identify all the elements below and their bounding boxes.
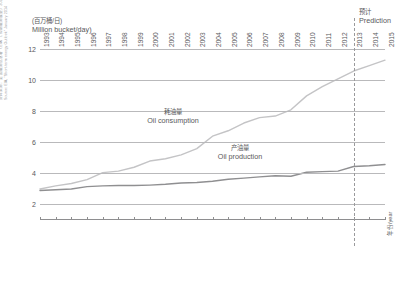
x-axis-tick-label: 1993 bbox=[43, 32, 50, 47]
x-axis-tick bbox=[338, 217, 339, 220]
x-axis-tick bbox=[118, 217, 119, 220]
x-axis-tick-label: 1994 bbox=[58, 32, 65, 47]
series-lines bbox=[40, 40, 385, 220]
x-axis-tick bbox=[213, 217, 214, 220]
x-axis-tick-label: 2000 bbox=[152, 32, 159, 47]
source-note: 资料来源：美国能源信息署（EIA）《短期能源展望》2014年1月 Source:… bbox=[0, 0, 9, 100]
x-axis-tick-label: 1996 bbox=[90, 32, 97, 47]
x-axis-tick bbox=[322, 217, 323, 220]
y-axis-tick-label: 2 bbox=[32, 201, 36, 208]
x-axis-tick-label: 2009 bbox=[294, 32, 301, 47]
prediction-caption-en: Prediction bbox=[359, 16, 391, 25]
x-axis-tick bbox=[71, 217, 72, 220]
x-axis-tick bbox=[103, 217, 104, 220]
x-axis-tick-label: 2015 bbox=[388, 32, 395, 47]
x-axis-title: 年份/year bbox=[386, 212, 394, 236]
series-label-oil-production-en: Oil production bbox=[185, 152, 295, 161]
y-axis-tick-label: 12 bbox=[28, 46, 36, 53]
x-axis-tick-label: 2004 bbox=[215, 32, 222, 47]
y-axis-caption-cn: (百万桶/日) bbox=[32, 16, 92, 25]
prediction-caption-cn: 预计 bbox=[359, 7, 391, 16]
series-label-oil-production: 产油量 Oil production bbox=[185, 143, 295, 161]
series-label-oil-consumption-en: Oil consumption bbox=[118, 116, 228, 125]
plot-area: 2468101219931994199519961997199819992000… bbox=[40, 40, 385, 220]
y-axis-tick-label: 6 bbox=[32, 139, 36, 146]
x-axis-tick-label: 2005 bbox=[231, 32, 238, 47]
x-axis-tick bbox=[56, 217, 57, 220]
x-axis-tick bbox=[197, 217, 198, 220]
x-axis-tick bbox=[260, 217, 261, 220]
x-axis-tick-label: 2012 bbox=[341, 32, 348, 47]
x-axis-tick-label: 2014 bbox=[372, 32, 379, 47]
prediction-caption: 预计 Prediction bbox=[359, 7, 391, 26]
y-axis-tick-label: 8 bbox=[32, 108, 36, 115]
x-axis-tick-label: 2001 bbox=[168, 32, 175, 47]
gridline bbox=[40, 80, 385, 81]
gridline bbox=[40, 173, 385, 174]
y-axis-tick-label: 10 bbox=[28, 77, 36, 84]
x-axis-tick bbox=[165, 217, 166, 220]
gridline bbox=[40, 204, 385, 205]
gridline bbox=[40, 49, 385, 50]
x-axis-tick-label: 2008 bbox=[278, 32, 285, 47]
x-axis-tick-label: 2007 bbox=[262, 32, 269, 47]
x-axis-tick bbox=[150, 217, 151, 220]
x-axis-tick bbox=[291, 217, 292, 220]
x-axis-tick-label: 2010 bbox=[309, 32, 316, 47]
x-axis-tick-label: 2002 bbox=[184, 32, 191, 47]
x-axis-tick bbox=[181, 217, 182, 220]
prediction-divider bbox=[354, 18, 355, 246]
series-label-oil-consumption-cn: 耗油量 bbox=[118, 107, 228, 116]
x-axis-tick bbox=[134, 217, 135, 220]
x-axis-tick-label: 2011 bbox=[325, 33, 332, 47]
x-axis-tick-label: 1995 bbox=[74, 32, 81, 47]
x-axis-tick bbox=[40, 217, 41, 220]
x-axis-tick bbox=[275, 217, 276, 220]
series-label-oil-production-cn: 产油量 bbox=[185, 143, 295, 152]
x-axis-tick bbox=[87, 217, 88, 220]
x-axis-tick bbox=[369, 217, 370, 220]
y-axis-tick-label: 4 bbox=[32, 170, 36, 177]
x-axis-tick-label: 1999 bbox=[137, 32, 144, 47]
x-axis-tick-label: 2006 bbox=[246, 32, 253, 47]
x-axis-tick-label: 2013 bbox=[356, 32, 363, 47]
x-axis-tick-label: 2003 bbox=[199, 32, 206, 47]
chart-canvas: 资料来源：美国能源信息署（EIA）《短期能源展望》2014年1月 Source:… bbox=[0, 0, 410, 281]
x-axis-tick bbox=[307, 217, 308, 220]
x-axis-tick-label: 1998 bbox=[121, 32, 128, 47]
source-note-en: Source: EIA, "Short-term energy Outlook"… bbox=[4, 0, 9, 100]
x-axis-tick bbox=[244, 217, 245, 220]
x-axis-tick-label: 1997 bbox=[105, 32, 112, 47]
series-label-oil-consumption: 耗油量 Oil consumption bbox=[118, 107, 228, 125]
x-axis-tick bbox=[228, 217, 229, 220]
